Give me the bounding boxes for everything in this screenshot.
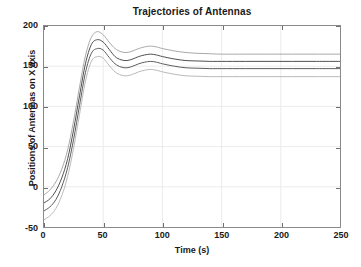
y-tick-right	[336, 148, 340, 149]
x-tick-label: 50	[83, 231, 123, 240]
x-tick-top	[163, 26, 164, 30]
series-line-2	[44, 48, 340, 211]
y-axis-title: Positions of Antennas on X axis	[27, 17, 37, 220]
plot-area	[43, 25, 341, 228]
y-tick-right	[336, 188, 340, 189]
y-tick	[44, 107, 48, 108]
x-tick-top	[44, 26, 45, 30]
series-line-1	[44, 40, 340, 203]
x-tick	[223, 223, 224, 227]
x-tick-top	[104, 26, 105, 30]
chart-title: Trajectories of Antennas	[43, 6, 341, 18]
x-tick	[104, 223, 105, 227]
y-tick	[44, 188, 48, 189]
x-tick-top	[282, 26, 283, 30]
figure-canvas: Trajectories of Antennas -50050100150200…	[0, 0, 361, 267]
y-tick-right	[336, 107, 340, 108]
series-lines	[44, 26, 340, 227]
x-tick-label: 100	[142, 231, 182, 240]
x-tick	[163, 223, 164, 227]
y-tick	[44, 148, 48, 149]
x-tick	[44, 223, 45, 227]
x-axis-title: Time (s)	[43, 245, 341, 255]
x-tick-label: 200	[261, 231, 301, 240]
y-tick-right	[336, 26, 340, 27]
x-tick	[282, 223, 283, 227]
x-tick-label: 150	[202, 231, 242, 240]
y-tick	[44, 67, 48, 68]
series-line-0	[44, 32, 340, 195]
y-tick-right	[336, 67, 340, 68]
x-tick-label: 250	[321, 231, 361, 240]
series-line-3	[44, 56, 340, 219]
x-tick-top	[223, 26, 224, 30]
x-tick-label: 0	[23, 231, 63, 240]
